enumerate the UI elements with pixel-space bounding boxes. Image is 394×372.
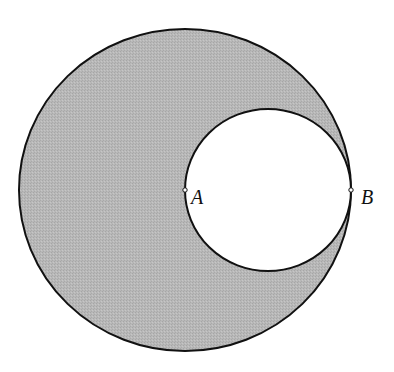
point-a-label: A [189, 186, 204, 208]
point-a-marker [183, 188, 187, 192]
inner-circle [185, 109, 351, 271]
tangent-circles-diagram: A B [0, 0, 394, 372]
point-b-marker [349, 188, 353, 192]
point-b-label: B [361, 186, 373, 208]
